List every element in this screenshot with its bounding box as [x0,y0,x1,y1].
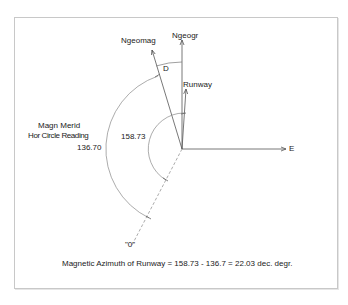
ngeogr-label: Ngeogr [172,32,198,40]
magn-merid-reading-arc [106,76,158,218]
zero-mark-label: "0" [125,241,135,249]
zero-direction-line [131,149,182,247]
runway-reading-value: 158.73 [121,133,145,141]
magn-merid-label: Magn Merid [38,122,80,130]
azimuth-formula: Magnetic Azimuth of Runway = 158.73 - 13… [62,260,292,268]
east-label: E [289,145,294,153]
ngeomag-label: Ngeomag [121,37,156,45]
runway-label: Runway [183,81,212,89]
arc-tick [155,74,160,77]
runway-reading-arc [148,113,184,180]
hor-circle-reading-label: Hor Circle Reading [28,132,88,140]
declination-arc [156,62,182,66]
runway-direction [182,89,186,149]
magn-merid-reading-value: 136.70 [77,144,101,152]
declination-label: D [163,65,169,73]
arc-tick [146,216,151,219]
